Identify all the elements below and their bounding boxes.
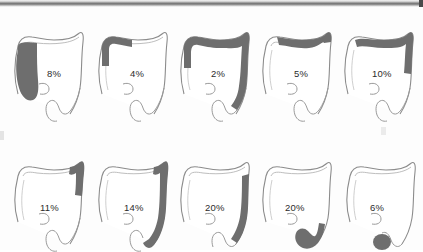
panel-7[interactable]: 14% (88, 152, 172, 252)
panel-2-label: 4% (130, 68, 144, 79)
panel-5[interactable]: 10% (334, 16, 418, 122)
panel-9[interactable]: 20% (252, 152, 336, 252)
panel-1-label: 8% (47, 68, 61, 79)
panel-4-label: 5% (294, 68, 308, 79)
panel-1[interactable]: 8% (4, 16, 88, 122)
panel-6[interactable]: 11% (4, 152, 88, 252)
panel-3[interactable]: 2% (170, 16, 254, 122)
panel-10-label: 6% (370, 202, 384, 213)
panel-5-label: 10% (372, 68, 392, 79)
colon-diagram-1 (4, 16, 88, 122)
shaded-segment-10 (373, 234, 391, 250)
panel-9-label: 20% (285, 202, 305, 213)
panel-4[interactable]: 5% (252, 16, 336, 122)
panel-8[interactable]: 20% (170, 152, 254, 252)
panel-10[interactable]: 6% (336, 152, 420, 252)
panel-2[interactable]: 4% (88, 16, 172, 122)
panel-6-label: 11% (40, 202, 59, 213)
panel-7-label: 14% (124, 202, 144, 213)
panel-8-label: 20% (205, 202, 225, 213)
panel-3-label: 2% (211, 68, 225, 79)
